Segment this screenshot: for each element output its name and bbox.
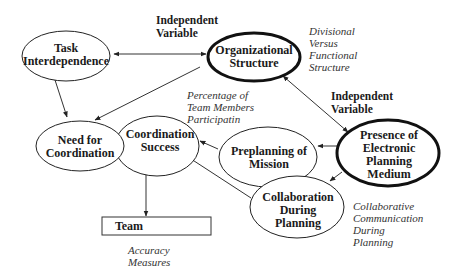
node-label: Organizational — [215, 43, 293, 57]
node-label: Need for — [58, 133, 103, 147]
node-label: Coordination — [46, 146, 115, 160]
node-label: During — [280, 203, 317, 217]
svg-text:Structure: Structure — [309, 61, 350, 73]
node-label: Team — [115, 219, 143, 233]
svg-text:Measures: Measures — [127, 256, 170, 268]
svg-text:Percentage of: Percentage of — [186, 89, 250, 101]
node-need-for-coordination: Need for Coordination — [36, 121, 124, 171]
node-label: Presence of — [360, 128, 419, 142]
causal-model-diagram: Task Interdependence Organizational Stru… — [0, 0, 469, 280]
independent-variable-label-1: Independent Variable — [156, 14, 218, 39]
svg-text:Collaborative: Collaborative — [353, 200, 414, 212]
node-collaboration-during-planning: Collaboration During Planning — [250, 176, 344, 238]
svg-text:Planning: Planning — [352, 236, 394, 248]
node-label: Interdependence — [23, 54, 110, 68]
node-label: Planning — [275, 216, 321, 230]
svg-text:Team Members: Team Members — [187, 101, 254, 113]
node-label: Preplanning of — [231, 144, 308, 158]
svg-text:Independent: Independent — [156, 14, 218, 27]
edge-preplanning-success — [200, 141, 218, 149]
edge-task-need — [55, 80, 67, 117]
node-label: Electronic — [363, 141, 416, 155]
node-label: Mission — [249, 157, 289, 171]
note-collaborative-communication: Collaborative Communication During Plann… — [352, 200, 424, 248]
node-label: Collaboration — [262, 190, 334, 204]
svg-text:Communication: Communication — [353, 212, 424, 224]
note-percentage-of-team-members: Percentage of Team Members Participatin — [186, 89, 254, 125]
node-label: Medium — [367, 167, 410, 181]
note-accuracy-measures: Accuracy Measures — [127, 244, 170, 268]
svg-text:Independent: Independent — [331, 90, 393, 103]
svg-text:Accuracy: Accuracy — [127, 244, 170, 256]
node-label: Coordination — [126, 127, 195, 141]
svg-text:Divisional: Divisional — [308, 25, 355, 37]
svg-text:Variable: Variable — [156, 27, 198, 39]
node-task-interdependence: Task Interdependence — [22, 31, 110, 81]
node-presence-of-electronic-planning-medium: Presence of Electronic Planning Medium — [337, 120, 439, 186]
svg-text:Participatin: Participatin — [186, 113, 241, 125]
edge-presence-collaboration — [330, 172, 342, 181]
node-team: Team — [102, 217, 211, 235]
edge-org-need — [95, 67, 200, 120]
node-label: Planning — [366, 154, 412, 168]
node-label: Structure — [229, 56, 279, 70]
svg-text:During: During — [352, 224, 385, 236]
svg-text:Versus: Versus — [309, 37, 338, 49]
node-coordination-success: Coordination Success — [115, 116, 199, 176]
node-organizational-structure: Organizational Structure — [208, 33, 300, 81]
independent-variable-label-2: Independent Variable — [331, 90, 393, 115]
node-label: Task — [54, 41, 79, 55]
node-label: Success — [141, 140, 180, 154]
svg-text:Functional: Functional — [308, 49, 357, 61]
note-divisional-versus-functional: Divisional Versus Functional Structure — [308, 25, 357, 73]
svg-text:Variable: Variable — [331, 103, 373, 115]
